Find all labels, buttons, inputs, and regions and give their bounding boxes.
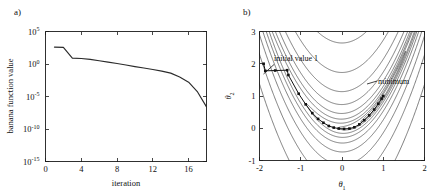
path-marker-8 xyxy=(317,118,320,121)
panel-a-svg: 048121610510010-510-1010-15 iteration ba… xyxy=(0,0,218,194)
path-marker-11 xyxy=(332,126,335,129)
panel-a-ytick-1: 100 xyxy=(28,59,40,69)
path-marker-16 xyxy=(358,123,361,126)
contour-level-4 xyxy=(254,0,431,143)
panel-b-x-axis-title: θ1 xyxy=(338,179,345,191)
path-marker-2 xyxy=(274,69,277,72)
panel-b-ytick-2: 1 xyxy=(251,91,255,101)
panel-a-ytick-0: 105 xyxy=(28,26,40,36)
panel-b-ytick-1: 0 xyxy=(251,123,255,133)
contour-level-3 xyxy=(260,0,429,137)
path-marker-19 xyxy=(373,108,376,111)
convergence-curve xyxy=(54,47,206,107)
annotation-initial-value: initial value 1 xyxy=(274,54,318,63)
path-marker-3 xyxy=(286,69,289,72)
panel-a-ytick-2: 10-5 xyxy=(26,91,40,101)
panel-a-convergence: a) 048121610510010-510-1010-15 iteration… xyxy=(0,0,218,194)
panel-b-y-axis-subscript: 2 xyxy=(229,92,235,95)
panel-a-xtick-4: 16 xyxy=(184,164,193,174)
panel-a-tick-labels: 048121610510010-510-1010-15 xyxy=(23,26,193,174)
panel-b-ytick-4: 3 xyxy=(251,27,255,37)
path-marker-21 xyxy=(380,97,383,100)
panel-b-contour: b) -2-1012-10123 initial value 1 minimum xyxy=(218,0,437,194)
contour-level-1 xyxy=(338,0,426,130)
panel-b-ytick-3: 2 xyxy=(251,59,255,69)
panel-a-xtick-0: 0 xyxy=(43,164,47,174)
path-marker-7 xyxy=(311,112,314,115)
panel-b-svg: -2-1012-10123 initial value 1 minimum θ1… xyxy=(218,0,437,194)
panel-b-xtick-4: 2 xyxy=(422,163,426,173)
path-marker-13 xyxy=(343,128,346,131)
panel-b-xtick-0: -2 xyxy=(256,163,263,173)
panel-a-xtick-2: 8 xyxy=(115,164,119,174)
panel-a-y-axis-title: banana function value xyxy=(5,58,15,133)
path-marker-15 xyxy=(353,126,356,129)
panel-a-x-axis-title: iteration xyxy=(112,178,141,188)
panel-b-y-axis-title: θ2 xyxy=(223,92,235,99)
panel-b-xtick-2: 0 xyxy=(340,163,344,173)
panel-a-ytick-4: 10-15 xyxy=(23,156,40,166)
path-marker-4 xyxy=(287,74,290,77)
panel-a-xtick-1: 4 xyxy=(79,164,84,174)
path-marker-22 xyxy=(382,95,385,98)
path-marker-20 xyxy=(377,102,380,105)
panel-a-ytick-3: 10-10 xyxy=(23,124,40,134)
path-marker-9 xyxy=(322,121,325,124)
panel-b-xtick-1: -1 xyxy=(297,163,304,173)
path-marker-10 xyxy=(328,125,331,128)
annotation-minimum: minimum xyxy=(378,77,410,86)
panel-b-ticks xyxy=(260,32,425,161)
panel-b-axis-box xyxy=(260,32,425,161)
path-marker-14 xyxy=(348,127,351,130)
panel-b-x-axis-subscript: 1 xyxy=(343,185,346,191)
panel-a-xtick-3: 12 xyxy=(149,164,158,174)
figure-root: a) 048121610510010-510-1010-15 iteration… xyxy=(0,0,437,194)
path-marker-17 xyxy=(363,119,366,122)
path-marker-12 xyxy=(337,127,340,130)
contour-level-7 xyxy=(249,0,435,184)
path-marker-0 xyxy=(262,62,265,65)
panel-a-axis-box xyxy=(46,32,207,162)
path-marker-6 xyxy=(304,103,307,106)
panel-a-ticks xyxy=(46,32,207,162)
panel-b-ytick-0: -1 xyxy=(248,156,255,166)
panel-b-xtick-3: 1 xyxy=(381,163,385,173)
path-marker-18 xyxy=(368,114,371,117)
path-marker-5 xyxy=(297,92,300,95)
